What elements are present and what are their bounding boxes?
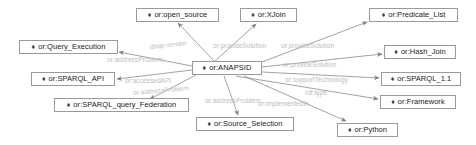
diamond-bullet-icon: ♦ bbox=[207, 120, 211, 127]
edge-label-anapsid-python: or:implementedIn bbox=[258, 101, 309, 108]
graph-node-sparql_1_1[interactable]: ♦or:SPARQL_1.1 bbox=[381, 72, 461, 86]
graph-node-predicate_list[interactable]: ♦or:Predicate_List bbox=[369, 8, 458, 22]
graph-node-label: or:SPARQL_API bbox=[49, 75, 105, 83]
diamond-bullet-icon: ♦ bbox=[251, 11, 255, 18]
diamond-bullet-icon: ♦ bbox=[391, 98, 395, 105]
graph-node-label: or:Hash_Join bbox=[401, 48, 446, 56]
diamond-bullet-icon: ♦ bbox=[67, 101, 71, 108]
graph-node-source_selection[interactable]: ♦or:Source_Selection bbox=[196, 117, 294, 131]
graph-node-hash_join[interactable]: ♦or:Hash_Join bbox=[384, 45, 456, 59]
diamond-bullet-icon: ♦ bbox=[148, 11, 152, 18]
graph-node-label: or:open_source bbox=[154, 11, 207, 19]
graph-node-label: or:SPARQL_query_Federation bbox=[73, 101, 176, 109]
edge-anapsid-source_selection bbox=[224, 76, 238, 115]
diagram-canvas: ♦or:open_source♦or:XJoin♦or:Predicate_Li… bbox=[0, 0, 476, 145]
graph-node-label: or:Query_Execution bbox=[38, 43, 105, 51]
diamond-bullet-icon: ♦ bbox=[32, 43, 36, 50]
graph-node-label: or:Python bbox=[355, 126, 388, 134]
edge-label-anapsid-sparql_api: or:accessedAPI bbox=[125, 78, 171, 85]
graph-node-sparql_api[interactable]: ♦or:SPARQL_API bbox=[31, 72, 115, 86]
diamond-bullet-icon: ♦ bbox=[42, 75, 46, 82]
edge-label-anapsid-hash_join: or:provideSolution bbox=[283, 62, 336, 69]
graph-node-label: or:Framework bbox=[398, 98, 445, 106]
graph-node-query_execution[interactable]: ♦or:Query_Execution bbox=[19, 40, 118, 54]
graph-node-sparql_query_federation[interactable]: ♦or:SPARQL_query_Federation bbox=[54, 98, 189, 112]
graph-node-framework[interactable]: ♦or:Framework bbox=[380, 95, 456, 109]
graph-node-open_source[interactable]: ♦or:open_source bbox=[136, 8, 219, 22]
edge-label-anapsid-framework: rdf:type bbox=[305, 90, 327, 97]
edge-label-anapsid-predicate_list: or:provideSolution bbox=[281, 43, 334, 50]
graph-node-python[interactable]: ♦or:Python bbox=[337, 123, 398, 137]
diamond-bullet-icon: ♦ bbox=[391, 75, 395, 82]
graph-node-label: or:XJoin bbox=[258, 11, 286, 19]
diamond-bullet-icon: ♦ bbox=[348, 126, 352, 133]
graph-node-label: or:Predicate_List bbox=[388, 11, 445, 19]
edge-label-anapsid-source_selection: or:addressProblem bbox=[205, 98, 261, 105]
diamond-bullet-icon: ♦ bbox=[382, 11, 386, 18]
diamond-bullet-icon: ♦ bbox=[203, 64, 207, 71]
edge-label-anapsid-query_execution: or:addressProblem bbox=[107, 57, 163, 64]
graph-node-label: or:Source_Selection bbox=[214, 120, 283, 128]
edge-label-anapsid-sparql_1_1: or:supportTechnology bbox=[285, 77, 348, 84]
graph-node-label: or:ANAPSID bbox=[209, 64, 251, 72]
graph-node-xjoin[interactable]: ♦or:XJoin bbox=[240, 8, 297, 22]
edge-label-anapsid-xjoin: or:provideSolution bbox=[213, 43, 266, 50]
graph-node-anapsid[interactable]: ♦or:ANAPSID bbox=[192, 61, 262, 75]
diamond-bullet-icon: ♦ bbox=[394, 48, 398, 55]
graph-node-label: or:SPARQL_1.1 bbox=[397, 75, 451, 83]
